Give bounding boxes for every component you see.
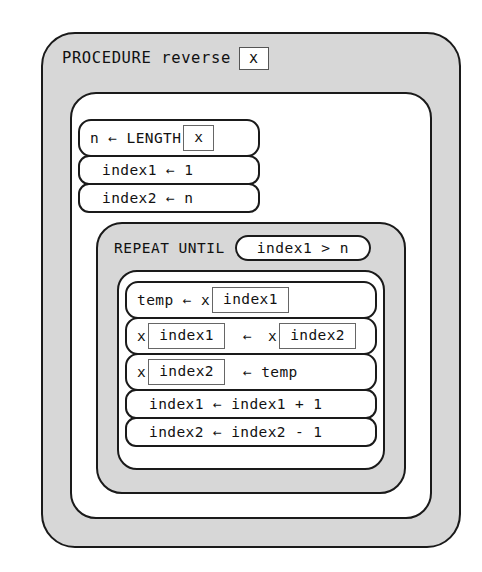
statement-temp-assign-index-box: index1 [212, 287, 289, 312]
statement-swap-first: x index1 ← x index2 [125, 317, 377, 355]
procedure-header: PROCEDURE reverse x [62, 47, 269, 70]
procedure-header-label: PROCEDURE reverse [62, 49, 231, 67]
statement-n-length-text: n ← LENGTH [90, 130, 181, 146]
statement-swap-second-index-box: index2 [148, 359, 225, 384]
statement-temp-assign-text: temp ← x [137, 292, 210, 308]
statement-index2-decrement: index2 ← index2 - 1 [125, 417, 377, 447]
statement-index2-init-text: index2 ← n [90, 190, 193, 206]
statement-index2-init: index2 ← n [78, 183, 260, 213]
statement-swap-second: x index2 ← temp [125, 353, 377, 391]
statement-swap-second-array: x [137, 364, 146, 380]
procedure-parameter-box: x [239, 47, 269, 70]
repeat-until-label: REPEAT UNTIL [114, 240, 225, 256]
statement-swap-second-rhs: ← temp [243, 364, 298, 380]
statement-swap-first-array-b: x [268, 328, 277, 344]
loop-body-statement-stack: temp ← x index1 x index1 ← x index2 x in… [125, 281, 377, 445]
setup-statement-stack: n ← LENGTH x index1 ← 1 index2 ← n [78, 119, 260, 211]
repeat-until-header: REPEAT UNTIL index1 > n [114, 235, 371, 261]
statement-n-length-array-box: x [183, 125, 214, 150]
statement-n-length: n ← LENGTH x [78, 119, 260, 157]
statement-temp-assign: temp ← x index1 [125, 281, 377, 319]
repeat-until-condition-capsule: index1 > n [235, 235, 371, 261]
statement-swap-first-array-a: x [137, 328, 146, 344]
statement-index1-increment: index1 ← index1 + 1 [125, 389, 377, 419]
statement-index1-init: index1 ← 1 [78, 155, 260, 185]
statement-swap-first-index-box-a: index1 [148, 323, 225, 348]
statement-index1-init-text: index1 ← 1 [90, 162, 193, 178]
statement-index1-increment-text: index1 ← index1 + 1 [137, 396, 322, 412]
statement-swap-first-index-box-b: index2 [279, 323, 356, 348]
statement-index2-decrement-text: index2 ← index2 - 1 [137, 424, 322, 440]
statement-swap-first-arrow: ← [243, 328, 252, 344]
